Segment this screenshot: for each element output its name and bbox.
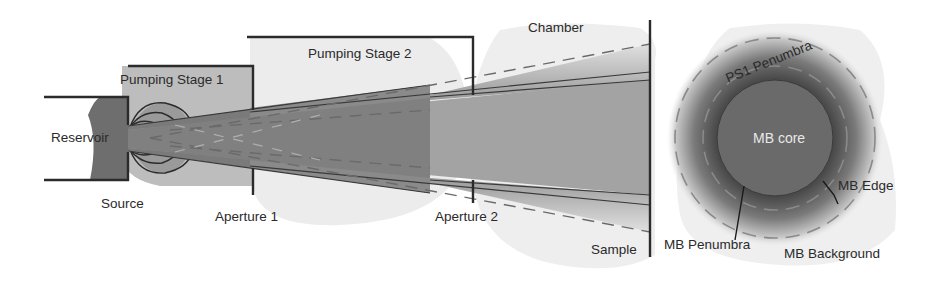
label-mb-background: MB Background — [784, 246, 880, 261]
label-aperture-1: Aperture 1 — [215, 209, 278, 224]
label-chamber: Chamber — [528, 20, 584, 35]
label-source: Source — [101, 196, 144, 211]
label-sample: Sample — [591, 242, 637, 257]
label-aperture-2: Aperture 2 — [435, 209, 498, 224]
label-reservoir: Reservoir — [51, 130, 109, 145]
label-mb-edge: MB Edge — [838, 178, 894, 193]
label-mb-core: MB core — [753, 130, 805, 146]
label-pumping-stage-2: Pumping Stage 2 — [308, 46, 412, 61]
label-mb-penumbra: MB Penumbra — [664, 237, 751, 252]
label-pumping-stage-1: Pumping Stage 1 — [120, 72, 224, 87]
beam-apparatus-diagram: Reservoir Source Pumping Stage 1 Pumping… — [0, 0, 949, 285]
